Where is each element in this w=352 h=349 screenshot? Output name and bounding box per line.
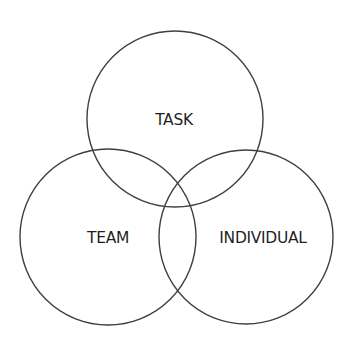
label-individual: INDIVIDUAL xyxy=(219,229,307,247)
circle-individual-group: INDIVIDUAL xyxy=(159,150,333,324)
label-task: TASK xyxy=(154,111,194,129)
label-team: TEAM xyxy=(86,229,129,247)
venn-diagram: TASK TEAM INDIVIDUAL xyxy=(0,0,352,349)
